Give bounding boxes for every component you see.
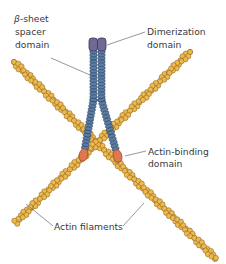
beta-sheet-label-line3: domain	[15, 39, 50, 50]
actin-binding-label-line1: Actin-binding	[148, 146, 209, 157]
beta-sheet-label-line2: spacer	[15, 26, 46, 37]
dimerization-label-line2: domain	[147, 39, 182, 50]
beta-sheet-label-line1: β-sheet	[13, 13, 49, 24]
dimerization-label-line1: Dimerization	[147, 26, 206, 37]
dimerization-domain	[89, 38, 106, 51]
actin-filaments-label: Actin filaments	[54, 221, 123, 232]
diagram-canvas: β-sheet spacer domain Dimerization domai…	[0, 0, 226, 264]
actin-binding-label-line2: domain	[148, 158, 183, 169]
